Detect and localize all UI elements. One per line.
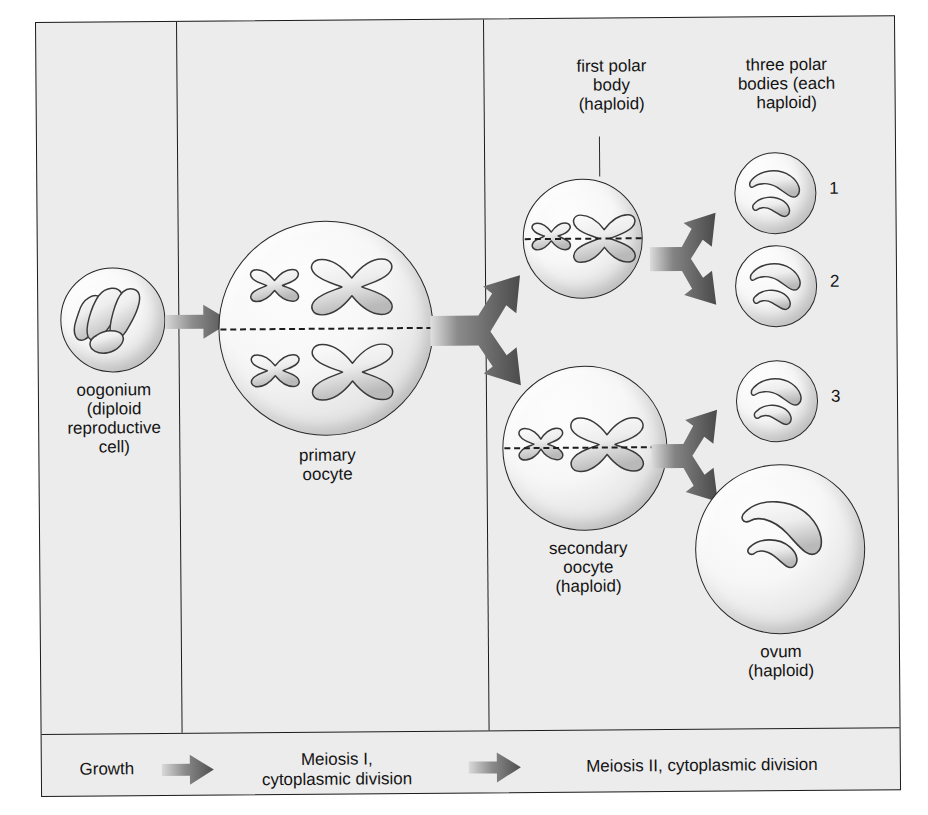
first-polar-body-leader-line	[599, 137, 600, 177]
caption-divider	[42, 727, 900, 735]
label-ovum: ovum (haploid)	[711, 642, 851, 681]
caption-meiosis-i: Meiosis I, cytoplasmic division	[202, 749, 472, 791]
oogenesis-figure: first polar body (haploid) three polar b…	[0, 0, 928, 815]
label-first-polar-body: first polar body (haploid)	[531, 56, 691, 114]
cell-polar-body-3	[736, 360, 819, 443]
caption-growth: Growth	[52, 759, 162, 780]
arrow-split-icon-polar-body-division	[647, 203, 733, 309]
caption-meiosis-ii: Meiosis II, cytoplasmic division	[512, 754, 892, 777]
arrow-split-icon-meiosis-i	[428, 259, 549, 395]
cell-oogonium	[60, 267, 166, 373]
label-three-polar-bodies: three polar bodies (each haploid)	[696, 54, 876, 113]
diagram-panel: first polar body (haploid) three polar b…	[35, 15, 901, 797]
polar-body-3-number: 3	[831, 387, 841, 407]
polar-body-3-chromosomes	[737, 361, 818, 442]
ovum-chromosomes	[696, 465, 865, 634]
polar-body-2-chromosomes	[736, 246, 817, 327]
cell-ovum	[694, 463, 865, 634]
cell-polar-body-2	[735, 245, 818, 328]
polar-body-2-number: 2	[830, 272, 840, 292]
oogonium-chromosomes	[61, 268, 165, 372]
polar-body-1-chromosomes	[735, 153, 816, 234]
column-divider-1	[176, 22, 183, 733]
polar-body-1-number: 1	[829, 179, 839, 199]
label-secondary-oocyte: secondary oocyte (haploid)	[518, 538, 658, 596]
cell-polar-body-1	[734, 152, 817, 235]
label-oogonium: oogonium (diploid reproductive cell)	[44, 380, 185, 457]
label-primary-oocyte: primary oocyte	[257, 445, 397, 484]
column-divider-2	[483, 19, 490, 730]
